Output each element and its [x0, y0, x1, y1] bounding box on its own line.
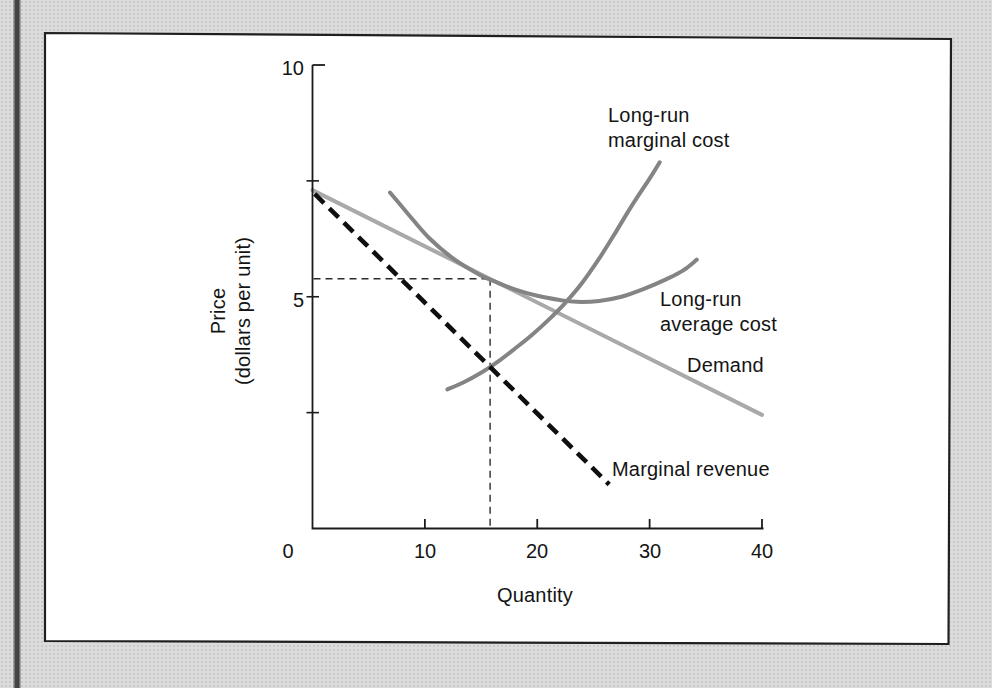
x-tick-label-30: 30 — [628, 540, 672, 562]
y-tick-label-5: 5 — [262, 289, 304, 311]
curve-label-demand: Demand — [687, 353, 764, 378]
x-tick-label-20: 20 — [515, 540, 559, 562]
x-axis-title-text: Quantity — [450, 583, 620, 608]
figure-panel-border — [45, 33, 951, 644]
curve-label-lrmc-line1: Long-run — [608, 103, 730, 128]
x-tick-label-0: 0 — [266, 540, 310, 562]
curve-label-marginal-revenue: Marginal revenue — [612, 457, 770, 482]
curve-label-mr-text: Marginal revenue — [612, 457, 770, 482]
curve-label-lrac-line2: average cost — [660, 312, 777, 337]
y-axis-title: Price (dollars per unit) — [206, 226, 256, 396]
curve-label-long-run-marginal-cost: Long-run marginal cost — [608, 103, 730, 153]
x-tick-label-40: 40 — [740, 540, 784, 562]
y-axis-title-line2: (dollars per unit) — [231, 226, 256, 396]
page-background: { "figure": { "kind": "scanned textbook … — [0, 0, 992, 688]
y-axis-title-line1: Price — [206, 226, 231, 396]
curve-label-lrac-line1: Long-run — [660, 287, 777, 312]
x-tick-label-10: 10 — [403, 540, 447, 562]
curve-label-demand-text: Demand — [687, 353, 764, 378]
y-tick-label-10: 10 — [262, 57, 304, 79]
x-axis-title: Quantity — [450, 583, 620, 608]
curve-label-lrmc-line2: marginal cost — [608, 128, 730, 153]
curve-label-long-run-average-cost: Long-run average cost — [660, 287, 777, 337]
